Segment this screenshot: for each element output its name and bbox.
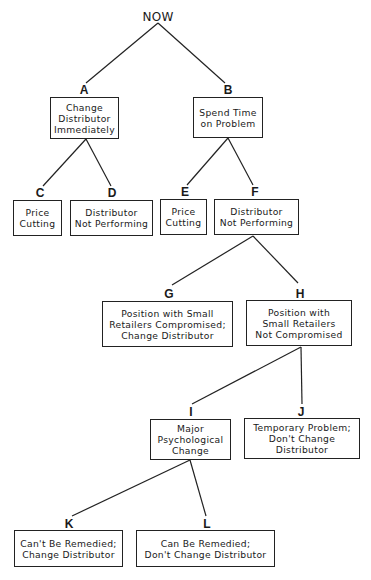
- edge-h-j: [301, 347, 302, 404]
- node-box-l: Can Be Remedied; Don't Change Distributo…: [136, 530, 275, 567]
- node-box-j: Temporary Problem; Don't Change Distribu…: [244, 418, 360, 459]
- edge-a-c: [43, 139, 86, 186]
- node-letter-c: C: [36, 187, 45, 199]
- edge-now-b: [158, 23, 225, 83]
- node-letter-l: L: [203, 518, 210, 530]
- node-box-e: Price Cutting: [160, 199, 207, 235]
- node-letter-h: H: [296, 288, 305, 300]
- node-letter-b: B: [224, 84, 233, 96]
- node-letter-d: D: [108, 187, 117, 199]
- root-label-now: NOW: [143, 10, 174, 24]
- node-box-k: Can't Be Remedied; Change Distributor: [14, 530, 123, 567]
- node-letter-j: J: [298, 406, 305, 418]
- node-letter-g: G: [164, 288, 173, 300]
- edge-f-h: [253, 236, 298, 283]
- node-box-g: Position with Small Retailers Compromise…: [102, 301, 233, 347]
- edge-f-g: [172, 236, 253, 285]
- tree-edges: [0, 0, 371, 580]
- node-box-c: Price Cutting: [13, 200, 62, 236]
- node-box-h: Position with Small Retailers Not Compro…: [246, 300, 352, 346]
- node-box-d: Distributor Not Performing: [70, 200, 153, 236]
- node-box-a: Change Distributor Immediately: [50, 97, 119, 139]
- decision-tree-diagram: NOW AChange Distributor ImmediatelyBSpen…: [0, 0, 371, 580]
- node-letter-f: F: [251, 186, 258, 198]
- edge-i-l: [190, 460, 206, 516]
- node-letter-a: A: [80, 84, 89, 96]
- node-letter-e: E: [181, 186, 189, 198]
- edge-b-e: [187, 138, 228, 185]
- node-box-i: Major Psychological Change: [150, 419, 231, 460]
- edge-a-d: [86, 139, 111, 186]
- node-box-b: Spend Time on Problem: [193, 97, 263, 138]
- node-letter-i: I: [189, 406, 192, 418]
- node-box-f: Distributor Not Performing: [214, 199, 299, 235]
- edge-i-k: [72, 460, 190, 516]
- node-letter-k: K: [65, 518, 74, 530]
- edge-b-f: [228, 138, 253, 185]
- edge-now-a: [86, 23, 158, 83]
- edge-h-i: [192, 347, 301, 404]
